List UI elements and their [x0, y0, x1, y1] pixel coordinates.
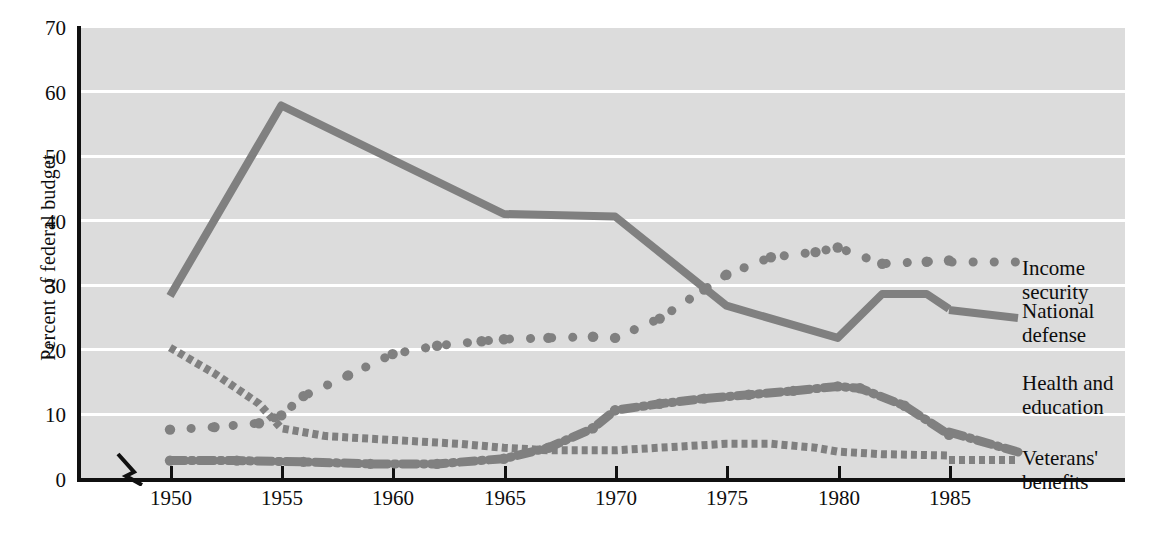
y-tick-label-0: 0: [6, 470, 66, 491]
x-tick-label-1975: 1975: [692, 488, 762, 509]
y-tick-label-70: 70: [6, 18, 66, 39]
legend-label-income-security: Income security: [1022, 257, 1151, 304]
gridline-20: [80, 348, 1125, 351]
x-axis-line: [77, 478, 1125, 482]
y-tick-label-20: 20: [6, 341, 66, 362]
x-tick-1960: [392, 466, 395, 480]
chart-figure: Percent of federal budget 70 60 50 40 30…: [0, 0, 1151, 540]
y-axis-line: [77, 26, 81, 482]
x-tick-1955: [281, 466, 284, 480]
x-tick-label-1960: 1960: [358, 488, 428, 509]
legend-label-health-and-education: Health and education: [1022, 372, 1114, 419]
gridline-50: [80, 155, 1125, 158]
x-tick-label-1955: 1955: [247, 488, 317, 509]
x-tick-1980: [838, 466, 841, 480]
y-tick-label-40: 40: [6, 212, 66, 233]
x-tick-label-1965: 1965: [470, 488, 540, 509]
x-tick-1950: [170, 466, 173, 480]
x-tick-1965: [504, 466, 507, 480]
gridline-10: [80, 413, 1125, 416]
axis-break-icon: [108, 452, 154, 486]
y-tick-label-30: 30: [6, 276, 66, 297]
gridline-40: [80, 219, 1125, 222]
gridline-60: [80, 90, 1125, 93]
x-tick-label-1980: 1980: [804, 488, 874, 509]
gridline-30: [80, 284, 1125, 287]
legend-label-national-defense: National defense: [1022, 300, 1151, 347]
y-tick-label-50: 50: [6, 147, 66, 168]
x-tick-1975: [726, 466, 729, 480]
x-tick-1970: [615, 466, 618, 480]
y-tick-label-10: 10: [6, 405, 66, 426]
y-tick-label-60: 60: [6, 83, 66, 104]
x-tick-label-1985: 1985: [915, 488, 985, 509]
legend-label-veterans-benefits: Veterans' benefits: [1022, 447, 1151, 494]
plot-area: [80, 28, 1125, 480]
x-tick-label-1950: 1950: [136, 488, 206, 509]
x-tick-label-1970: 1970: [581, 488, 651, 509]
x-tick-1985: [949, 466, 952, 480]
